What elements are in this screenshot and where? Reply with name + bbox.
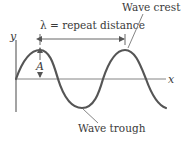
- y-axis: y: [9, 30, 17, 112]
- amplitude-indicator: A: [35, 52, 45, 77]
- crest-label: Wave crest: [122, 1, 181, 13]
- amplitude-label: A: [35, 60, 44, 73]
- wavelength-indicator: λ = repeat distance: [40, 19, 145, 45]
- x-axis-label: x: [168, 73, 175, 86]
- y-axis-label: y: [9, 30, 17, 43]
- wavelength-label: λ = repeat distance: [40, 19, 145, 31]
- trough-callout: Wave trough: [78, 109, 146, 134]
- trough-label: Wave trough: [78, 122, 146, 134]
- wave-diagram: y x λ = repeat distance A Wave crest: [0, 0, 182, 143]
